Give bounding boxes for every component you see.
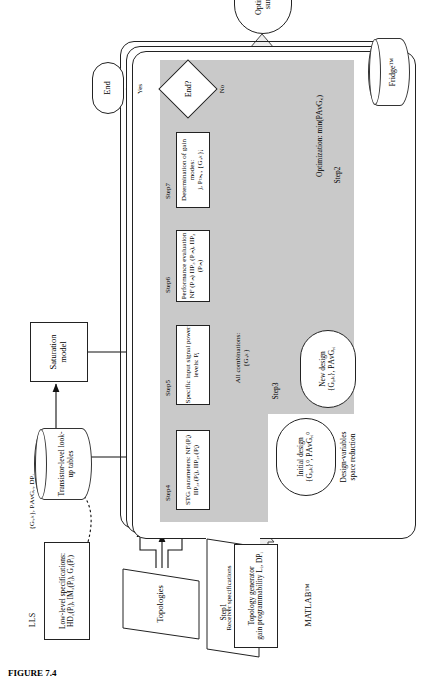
step7-label: Step7 [164, 174, 172, 208]
gain-modes-line1: Determination of gain modes: [181, 133, 197, 207]
figure-rotator: LLS Low-level specifications: HD₁(Pᵢ), I… [10, 22, 430, 662]
topology-generator-box: Topology generator gain programmability … [234, 544, 278, 648]
low-level-spec-line2: HD₁(Pᵢ), IM₃(Pᵢ), G₁(Pᵢ) [67, 553, 75, 629]
optimization-objective-label: Optimization: min(PΑᴠG,ᵢ) [316, 76, 325, 196]
stg-params-line2: IIP₃,ᵢ(Pⱼ), IIP₂,ᵢ(Pⱼ) [193, 435, 201, 505]
optimization-summary-line1: Optimization [254, 0, 263, 15]
end-terminator-label: End [103, 81, 113, 95]
all-combinations-label: All combinations: [234, 316, 242, 400]
low-level-specifications-box: Low-level specifications: HD₁(Pᵢ), IM₃(P… [44, 542, 90, 640]
initial-design-node: Initial design {Gᵢ,ₖ}⁰, PΑᴠG,ᵢ⁰ [276, 418, 336, 496]
new-design-line2: {Gᵢ,ₖ}, PΑᴠG,ᵢ [328, 347, 337, 391]
step5-label: Step5 [164, 371, 172, 405]
step4-label: Step4 [164, 476, 172, 510]
figure-caption: FIGURE 7.4 [8, 668, 57, 678]
gain-modes-line2: j, Pₜₕ,ᵢ, {Gᵢ,ₖ}ⱼ [197, 133, 205, 207]
saturation-model-label: Saturation model [49, 323, 68, 381]
no-label: No [218, 72, 226, 106]
all-combinations-value: {Gᵢ,ₖ} [242, 316, 250, 400]
design-var-line2: space reduction [349, 412, 358, 502]
step2-label: Step2 [334, 158, 343, 192]
input-signal-levels-box: Specific input signal power levels: Pⱼ [176, 325, 210, 405]
new-design-node: New design {Gᵢ,ₖ}, PΑᴠG,ᵢ [300, 330, 356, 408]
end-decision-label: End? [167, 68, 209, 110]
step3-label: Step3 [272, 374, 281, 408]
topologies-parallelogram: Topologies [122, 568, 200, 640]
input-levels-line2: levels: Pⱼ [193, 327, 201, 404]
fridge-cylinder: Fridge™ [368, 38, 410, 106]
saturation-model-box: Saturation model [30, 322, 88, 382]
performance-eval-line2: NF (Pᵢₙ) IIP₃ (Pᵢₙ), IIP₂ (Pᵢₙ) [189, 231, 205, 301]
stg-parameters-box: STGᵢ parameters: NFᵢ(Pⱼ) IIP₃,ᵢ(Pⱼ), IIP… [176, 430, 210, 510]
performance-evaluation-box: Performance evaluation NF (Pᵢₙ) IIP₃ (Pᵢ… [176, 230, 210, 302]
end-decision-diamond: End? [167, 68, 209, 110]
fridge-label: Fridge™ [388, 58, 397, 87]
design-variable-reduction-annotation: Design-variables space reduction [340, 412, 357, 502]
gain-modes-box: Determination of gain modes: j, Pₜₕ,ᵢ, {… [176, 132, 210, 208]
lookup-tables-line2: up tables [67, 432, 76, 497]
topologies-label: Topologies [122, 568, 200, 640]
flowchart-canvas: LLS Low-level specifications: HD₁(Pᵢ), I… [10, 22, 430, 662]
step6-label: Step6 [164, 268, 172, 302]
matlab-label: MATLAB™ [304, 570, 314, 640]
transistor-lookup-tables-cylinder: Transistor-level look- up tables [34, 428, 92, 500]
all-combinations-annotation: All combinations: {Gᵢ,ₖ} [234, 316, 250, 400]
yes-label: Yes [136, 72, 144, 106]
initial-design-line2: {Gᵢ,ₖ}⁰, PΑᴠG,ᵢ⁰ [306, 432, 315, 482]
lls-label: LLS [28, 600, 37, 640]
step1-label: Step1 [220, 592, 229, 632]
topology-generator-line2: gain programmability Lᵢ, DPᵢ [256, 552, 264, 639]
optimization-summary-line2: summary [263, 0, 272, 15]
end-terminator: End [92, 62, 124, 114]
